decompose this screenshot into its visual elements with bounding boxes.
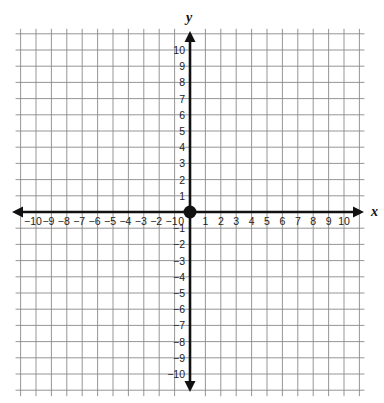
axes	[12, 31, 364, 392]
origin-label: 0	[178, 215, 184, 227]
y-tick-label: −2	[173, 238, 185, 250]
y-tick-label: 1	[179, 190, 185, 202]
y-tick-label: −3	[173, 255, 185, 267]
x-axis-right-arrow-icon	[353, 207, 364, 218]
x-tick-label: −2	[150, 215, 162, 227]
y-tick-label: 10	[173, 44, 185, 56]
y-axis-label: y	[184, 10, 193, 25]
x-tick-label: −4	[119, 215, 131, 227]
y-tick-label: 6	[179, 109, 185, 121]
x-tick-label: −3	[135, 215, 147, 227]
x-tick-label: 5	[264, 215, 270, 227]
x-tick-label: −7	[73, 215, 85, 227]
y-tick-label: −10	[167, 368, 185, 380]
y-tick-label: 3	[179, 157, 185, 169]
x-tick-label: 7	[295, 215, 301, 227]
tick-labels: −10−9−8−7−6−5−4−3−2−112345678910−10−9−8−…	[24, 10, 378, 380]
y-tick-label: −7	[173, 319, 185, 331]
y-axis-up-arrow-icon	[185, 31, 196, 42]
x-tick-label: 2	[218, 215, 224, 227]
x-tick-label: −6	[89, 215, 101, 227]
x-tick-label: 8	[310, 215, 316, 227]
x-tick-label: −8	[58, 215, 70, 227]
coordinate-plane: −10−9−8−7−6−5−4−3−2−112345678910−10−9−8−…	[0, 0, 384, 403]
x-axis-left-arrow-icon	[12, 207, 23, 218]
x-tick-label: 4	[249, 215, 255, 227]
origin-point	[184, 206, 197, 219]
y-tick-label: −9	[173, 352, 185, 364]
y-tick-label: −4	[173, 271, 185, 283]
x-tick-label: −5	[104, 215, 116, 227]
x-tick-label: −9	[42, 215, 54, 227]
y-tick-label: 9	[179, 60, 185, 72]
y-tick-label: 8	[179, 76, 185, 88]
x-tick-label: −10	[24, 215, 42, 227]
x-tick-label: 10	[338, 215, 350, 227]
x-tick-label: 9	[326, 215, 332, 227]
x-axis-label: x	[370, 204, 378, 219]
x-tick-label: 1	[202, 215, 208, 227]
x-tick-label: 3	[233, 215, 239, 227]
y-tick-label: −6	[173, 303, 185, 315]
y-tick-label: 5	[179, 125, 185, 137]
y-tick-label: 4	[179, 141, 185, 153]
x-tick-label: 6	[279, 215, 285, 227]
y-tick-label: 2	[179, 174, 185, 186]
y-tick-label: −5	[173, 287, 185, 299]
y-tick-label: −8	[173, 336, 185, 348]
y-tick-label: 7	[179, 93, 185, 105]
